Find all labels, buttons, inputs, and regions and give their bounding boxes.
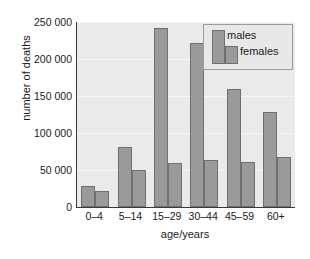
legend: males females bbox=[203, 24, 293, 70]
x-axis-tick-labels: 0–45–1415–2930–4445–5960+ bbox=[76, 210, 294, 226]
legend-label-males: males bbox=[227, 29, 256, 41]
bar-males-15-29 bbox=[154, 28, 168, 207]
x-tick-label: 5–14 bbox=[119, 210, 142, 222]
bar-males-60+ bbox=[263, 112, 277, 207]
bar-males-5-14 bbox=[118, 147, 132, 207]
legend-swatch-males bbox=[212, 30, 225, 64]
x-axis-title: age/years bbox=[76, 228, 294, 240]
bar-females-30-44 bbox=[204, 160, 218, 207]
bar-males-0-4 bbox=[81, 186, 95, 207]
x-tick-label: 60+ bbox=[267, 210, 285, 222]
y-tick-label: 100 000 bbox=[16, 127, 72, 139]
bar-females-45-59 bbox=[241, 162, 255, 207]
bar-females-5-14 bbox=[132, 170, 146, 207]
bar-females-15-29 bbox=[168, 163, 182, 207]
bar-females-60+ bbox=[277, 157, 291, 207]
x-tick-label: 15–29 bbox=[152, 210, 181, 222]
y-tick-label: 0 bbox=[16, 201, 72, 213]
y-tick-label: 200 000 bbox=[16, 53, 72, 65]
legend-swatch-females bbox=[225, 46, 238, 64]
y-tick-label: 50 000 bbox=[16, 164, 72, 176]
y-tick-label: 150 000 bbox=[16, 90, 72, 102]
x-tick-label: 30–44 bbox=[189, 210, 218, 222]
x-tick-label: 0–4 bbox=[85, 210, 103, 222]
bar-males-45-59 bbox=[227, 89, 241, 207]
x-tick-label: 45–59 bbox=[225, 210, 254, 222]
bar-chart-figure: number of deaths 050 000100 000150 00020… bbox=[0, 0, 310, 259]
legend-label-females: females bbox=[240, 45, 279, 57]
y-axis-tick-labels: 050 000100 000150 000200 000250 000 bbox=[16, 0, 72, 259]
y-tick-label: 250 000 bbox=[16, 16, 72, 28]
bar-females-0-4 bbox=[95, 191, 109, 207]
